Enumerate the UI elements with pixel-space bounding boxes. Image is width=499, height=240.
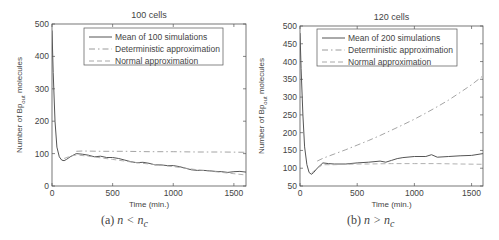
caption-b: (b) n > nc [347,213,395,229]
y-tick-label: 200 [283,128,297,138]
x-tick-label: 500 [350,188,364,198]
y-axis-label: Number of Bpout molecules [15,57,26,153]
legend-label: Deterministic approximation [348,45,453,55]
caption-sub: c [390,218,394,229]
legend-label: Normal approximation [115,56,198,66]
y-tick-label: 450 [283,39,297,49]
x-axis-label: Time (min.) [371,200,411,209]
series-line [311,164,483,174]
y-tick-label: 500 [35,19,49,29]
series-line [317,76,483,161]
legend-label: Deterministic approximation [115,44,220,54]
y-tick-label: 250 [283,110,297,120]
caption-sub: c [143,218,147,229]
caption-math: n < n [117,213,143,227]
y-tick-label: 400 [283,57,297,67]
x-axis-label: Time (min.) [129,200,169,209]
chart-a: 100 cells0500100015000100200300400500Tim… [0,0,250,240]
legend-label: Mean of 100 simulations [115,32,207,42]
y-tick-label: 100 [283,163,297,173]
chart-title: 100 cells [131,10,167,20]
series-line [76,151,246,152]
y-tick-label: 200 [35,116,49,126]
caption-math: n > n [364,213,390,227]
y-tick-label: 350 [283,74,297,84]
x-tick-label: 1500 [224,188,243,198]
caption-prefix: (a) [101,213,117,227]
caption-a: (a) n < nc [101,213,148,229]
y-tick-label: 50 [288,181,298,191]
y-tick-label: 300 [35,84,49,94]
legend-label: Normal approximation [348,57,431,67]
chart-b: 120 cells0500100015005010015020025030035… [250,0,499,240]
x-tick-label: 1000 [405,188,424,198]
x-tick-label: 500 [106,188,120,198]
caption-prefix: (b) [347,213,364,227]
y-tick-label: 0 [44,181,49,191]
y-tick-label: 150 [283,145,297,155]
y-tick-label: 100 [35,149,49,159]
chart-title: 120 cells [374,12,410,22]
series-line [64,155,246,175]
y-tick-label: 500 [283,21,297,31]
y-tick-label: 400 [35,51,49,61]
x-tick-label: 1500 [462,188,481,198]
legend-label: Mean of 200 simulations [348,33,440,43]
chart-panel-b: 120 cells0500100015005010015020025030035… [250,0,499,240]
y-axis-label: Number of Bpout molecules [257,58,268,154]
x-tick-label: 0 [298,188,303,198]
x-tick-label: 0 [50,188,55,198]
chart-panel-a: 100 cells0500100015000100200300400500Tim… [0,0,250,240]
x-tick-label: 1000 [164,188,183,198]
y-tick-label: 300 [283,92,297,102]
